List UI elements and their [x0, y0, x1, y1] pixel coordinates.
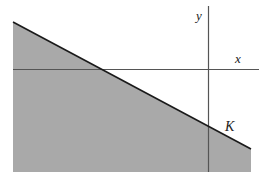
region-k-fill: [13, 22, 251, 172]
y-axis-label: y: [194, 8, 202, 23]
half-plane-diagram: y x K: [0, 0, 267, 181]
x-axis-label: x: [234, 51, 241, 66]
region-k-label: K: [224, 119, 235, 134]
